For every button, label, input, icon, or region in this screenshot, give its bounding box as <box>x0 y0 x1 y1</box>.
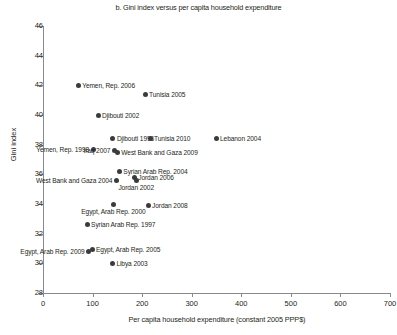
y-tick-label-wrap: 42 <box>0 81 43 89</box>
y-axis-title: Gini index <box>9 110 18 180</box>
x-tick-mark <box>43 293 44 297</box>
x-axis-title: Per capita household expenditure (consta… <box>43 315 391 324</box>
x-tick-label: 500 <box>271 299 311 308</box>
data-point-label: Tunisia 2010 <box>154 135 190 142</box>
data-point-label: Djibouti 2002 <box>102 112 139 119</box>
data-point[interactable] <box>134 178 139 183</box>
y-tick-label: 32 <box>9 230 43 238</box>
data-point-label: Yemen, Rep. 1998 <box>36 146 89 153</box>
x-tick-mark <box>340 293 341 297</box>
data-point-label: Tunisia 2005 <box>149 91 185 98</box>
y-tick-label: 44 <box>9 52 43 60</box>
x-tick-mark <box>192 293 193 297</box>
y-tick-label-wrap: 44 <box>0 52 43 60</box>
x-tick-label: 600 <box>320 299 360 308</box>
y-tick-label-wrap: 40 <box>0 111 43 119</box>
y-tick-label-wrap: 30 <box>0 259 43 267</box>
data-point[interactable] <box>86 249 91 254</box>
x-tick-mark <box>241 293 242 297</box>
data-point-label: Jordan 2002 <box>118 184 154 191</box>
x-tick-label: 300 <box>172 299 212 308</box>
data-point-label: Egypt, Arab Rep. 2000 <box>81 208 145 215</box>
y-tick-label: 42 <box>9 81 43 89</box>
data-point[interactable] <box>148 136 153 141</box>
x-tick-mark <box>93 293 94 297</box>
y-tick-label-wrap: 34 <box>0 200 43 208</box>
data-point[interactable] <box>117 169 122 174</box>
data-point[interactable] <box>146 203 151 208</box>
data-point[interactable] <box>110 136 115 141</box>
data-point-label: Lebanon 2004 <box>220 135 261 142</box>
data-point[interactable] <box>85 222 90 227</box>
data-point-label: Libya 2003 <box>116 260 147 267</box>
data-point[interactable] <box>115 150 120 155</box>
y-tick-label: 34 <box>9 200 43 208</box>
y-tick-label: 28 <box>9 289 43 297</box>
data-point[interactable] <box>76 83 81 88</box>
x-axis-line <box>43 293 391 294</box>
data-point-label: West Bank and Gaza 2004 <box>36 177 112 184</box>
data-point[interactable] <box>114 178 119 183</box>
data-point-label: Egypt, Arab Rep. 2009 <box>20 248 84 255</box>
data-point[interactable] <box>110 261 115 266</box>
data-point-label: Syrian Arab Rep. 1997 <box>91 221 155 228</box>
data-point[interactable] <box>143 92 148 97</box>
x-tick-mark <box>291 293 292 297</box>
data-point-label: Iraq 2007 <box>83 147 110 154</box>
data-point[interactable] <box>214 136 219 141</box>
y-tick-label-wrap: 46 <box>0 22 43 30</box>
data-point-label: West Bank and Gaza 2009 <box>121 149 197 156</box>
y-tick-label-wrap: 32 <box>0 230 43 238</box>
x-tick-label: 400 <box>221 299 261 308</box>
y-tick-label-wrap: 28 <box>0 289 43 297</box>
x-tick-label: 200 <box>122 299 162 308</box>
x-tick-mark <box>142 293 143 297</box>
x-tick-label: 700 <box>370 299 397 308</box>
data-point-label: Egypt, Arab Rep. 2005 <box>96 246 160 253</box>
x-tick-mark <box>390 293 391 297</box>
x-tick-label: 100 <box>73 299 113 308</box>
scatter-chart: b. Gini index versus per capita househol… <box>0 0 397 335</box>
data-point-label: Yemen, Rep. 2006 <box>82 82 135 89</box>
y-tick-label: 46 <box>9 22 43 30</box>
data-point[interactable] <box>111 202 116 207</box>
data-point-label: Jordan 2008 <box>152 202 188 209</box>
data-point-label: Jordan 2006 <box>138 174 174 181</box>
x-tick-label: 0 <box>23 299 63 308</box>
data-point[interactable] <box>96 113 101 118</box>
y-tick-label: 30 <box>9 259 43 267</box>
chart-title: b. Gini index versus per capita househol… <box>0 3 397 12</box>
